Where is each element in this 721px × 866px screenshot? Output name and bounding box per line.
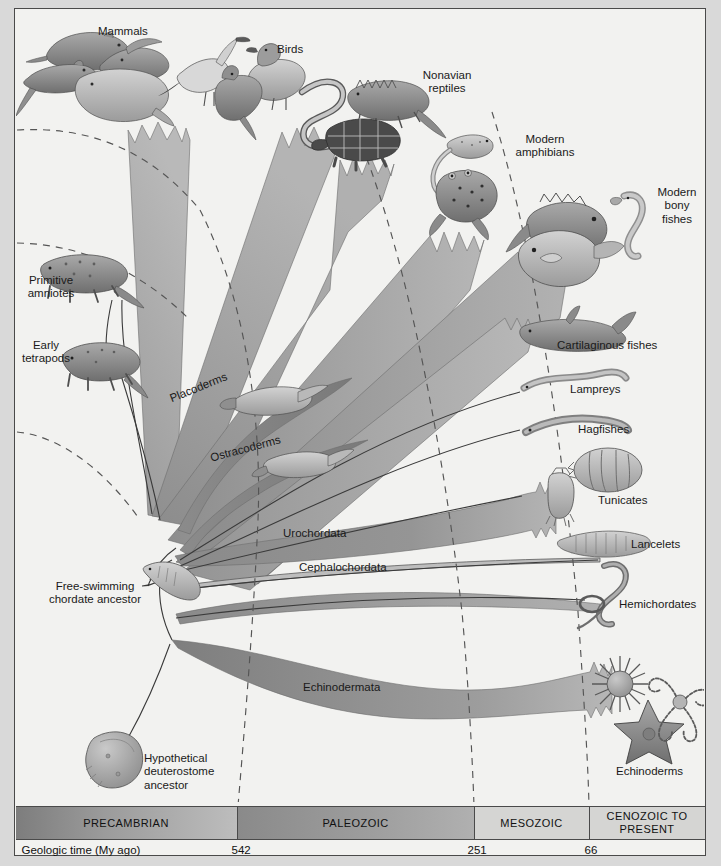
geologic-timeline-bar: PRECAMBRIAN PALEOZOIC MESOZOIC CENOZOIC … [16,806,705,840]
tick-542: 542 [232,844,251,856]
geologic-time-axis-row: Geologic time (My ago) 542 251 66 [16,840,705,864]
label-modern-bony-fishes: Modern bony fishes [646,186,708,226]
illustration-acorn-worm [578,564,626,628]
label-cartilaginous-fishes: Cartilaginous fishes [557,339,657,352]
label-echinodermata: Echinodermata [303,681,380,694]
illustration-frog [429,170,497,240]
phylogeny-figure: Mammals Birds Nonavian reptiles Modern a… [0,0,721,866]
era-paleozoic-label: PALEOZOIC [238,817,474,830]
illustration-deuterostome-ancestor [86,732,143,788]
label-birds: Birds [277,43,303,56]
label-urochordata: Urochordata [283,527,346,540]
label-lancelets: Lancelets [631,538,680,551]
label-echinoderms: Echinoderms [616,765,683,778]
clade-echinodermata [172,640,612,719]
label-lampreys: Lampreys [570,383,621,396]
era-precambrian: PRECAMBRIAN [16,807,238,839]
era-mesozoic: MESOZOIC [475,807,590,839]
label-modern-amphibians: Modern amphibians [505,133,585,160]
label-cephalochordata: Cephalochordata [299,561,387,574]
arc-precambrian-c [17,432,140,520]
era-precambrian-label: PRECAMBRIAN [16,817,237,830]
label-early-tetrapods: Early tetrapods [12,339,80,366]
label-primitive-amniotes: Primitive amniotes [12,274,90,301]
era-cenozoic: CENOZOIC TO PRESENT [590,807,705,839]
label-mammals: Mammals [98,25,148,38]
tick-251: 251 [468,844,487,856]
label-nonavian-reptiles: Nonavian reptiles [408,69,486,96]
label-hemichordates: Hemichordates [619,598,696,611]
illustration-tunicate-colony [568,448,642,492]
label-hypothetical-deuterostome-ancestor: Hypothetical deuterostome ancestor [144,752,214,792]
illustration-bony-fish-tang [518,231,624,287]
line-deuterostome-root [128,644,170,738]
label-free-swimming-chordate-ancestor: Free-swimming chordate ancestor [40,580,150,607]
label-hagfishes: Hagfishes [578,423,629,436]
illustration-mammal-manatee [75,69,174,126]
clade-hemichordates [176,593,600,624]
era-paleozoic: PALEOZOIC [238,807,475,839]
era-mesozoic-label: MESOZOIC [475,817,589,830]
tick-66: 66 [585,844,598,856]
geologic-time-axis-label: Geologic time (My ago) [22,844,141,856]
era-cenozoic-label: CENOZOIC TO PRESENT [590,810,705,835]
illustration-sea-urchin [592,656,648,712]
label-tunicates: Tunicates [598,494,647,507]
